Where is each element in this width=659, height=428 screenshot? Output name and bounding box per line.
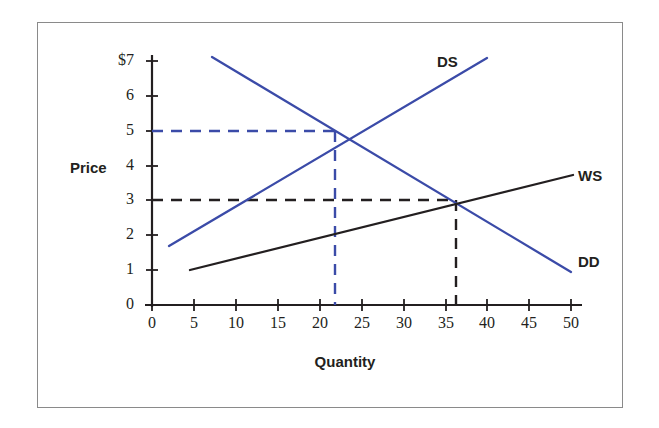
y-tick-label-7: $7 — [104, 51, 134, 69]
y-tick-label-1: 1 — [104, 260, 134, 278]
x-tick-label-30: 30 — [389, 314, 419, 332]
x-tick-label-20: 20 — [305, 314, 335, 332]
x-tick-label-5: 5 — [179, 314, 209, 332]
ws-curve-label: WS — [578, 167, 602, 184]
x-tick-label-10: 10 — [221, 314, 251, 332]
x-tick-label-40: 40 — [472, 314, 502, 332]
y-tick-label-4: 4 — [104, 156, 134, 174]
x-axis-title: Quantity — [305, 353, 385, 370]
x-tick-label-35: 35 — [431, 314, 461, 332]
x-tick-label-45: 45 — [514, 314, 544, 332]
y-tick-label-3: 3 — [104, 190, 134, 208]
dd-curve-label: DD — [578, 253, 600, 270]
x-tick-label-0: 0 — [137, 314, 167, 332]
y-tick-label-2: 2 — [104, 225, 134, 243]
y-axis-title: Price — [70, 159, 107, 176]
dd-curve — [212, 57, 571, 272]
y-tick-label-6: 6 — [104, 86, 134, 104]
y-tick-label-5: 5 — [104, 121, 134, 139]
ds-curve — [169, 58, 487, 246]
chart-page: $7 6 5 4 3 2 1 0 0 5 10 15 20 25 30 35 4… — [0, 0, 659, 428]
x-tick-label-50: 50 — [556, 314, 586, 332]
domestic-equilibrium-guides — [152, 131, 335, 305]
ws-curve — [190, 175, 573, 270]
x-tick-label-25: 25 — [347, 314, 377, 332]
x-tick-label-15: 15 — [263, 314, 293, 332]
ds-curve-label: DS — [437, 53, 458, 70]
y-tick-label-0: 0 — [104, 295, 134, 313]
axes — [145, 55, 582, 307]
